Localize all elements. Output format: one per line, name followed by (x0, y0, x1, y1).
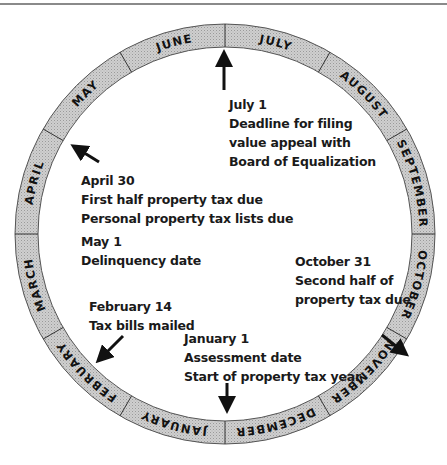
event-line: Personal property tax lists due (81, 209, 293, 228)
event-date: April 30 (81, 171, 293, 190)
event-october-31: October 31 Second half of property tax d… (295, 252, 411, 309)
event-line: property tax due (295, 290, 411, 309)
event-line: Board of Equalization (229, 152, 376, 171)
event-january-1: January 1 Assessment date Start of prope… (184, 329, 361, 386)
event-may-1: May 1 Delinquency date (81, 232, 201, 270)
event-date: February 14 (89, 297, 195, 316)
event-date: May 1 (81, 232, 201, 251)
event-line: Tax bills mailed (89, 316, 195, 335)
event-february-14: February 14 Tax bills mailed (89, 297, 195, 335)
event-date: January 1 (184, 329, 361, 348)
event-date: July 1 (229, 95, 376, 114)
event-line: Start of property tax year (184, 367, 361, 386)
event-line: Delinquency date (81, 251, 201, 270)
arrow-april (78, 149, 99, 162)
event-line: First half property tax due (81, 190, 293, 209)
arrow-february (102, 336, 123, 357)
event-line: Deadline for filing (229, 114, 376, 133)
event-line: Assessment date (184, 348, 361, 367)
event-date: October 31 (295, 252, 411, 271)
event-july-1: July 1 Deadline for filing value appeal … (229, 95, 376, 171)
event-line: Second half of (295, 271, 411, 290)
event-april-30: April 30 First half property tax due Per… (81, 171, 293, 228)
event-line: value appeal with (229, 133, 376, 152)
calendar-wheel: JULYAUGUSTSEPTEMBEROCTOBERNOVEMBERDECEMB… (0, 0, 447, 465)
